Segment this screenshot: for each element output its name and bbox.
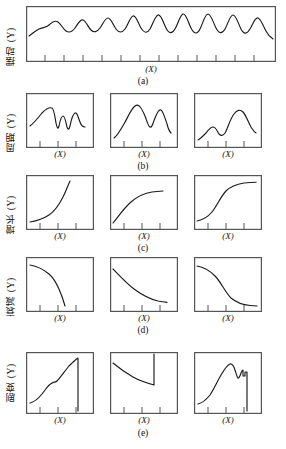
plot-abrupt-rise-then-drop bbox=[26, 352, 94, 414]
panel-b3-xlabel: (X) bbox=[194, 149, 262, 159]
row-c: 增长 (Y) (X) bbox=[0, 175, 286, 255]
row-e-ylabel: 剧变 (Y) bbox=[0, 352, 24, 414]
panel-b2-xlabel: (X) bbox=[110, 149, 178, 159]
plot-period-multi-peak bbox=[26, 93, 94, 148]
row-e-caption: (e) bbox=[0, 428, 286, 438]
panel-d3-xlabel: (X) bbox=[194, 313, 262, 323]
panel-e1-xlabel: (X) bbox=[26, 415, 94, 425]
row-a-caption: (a) bbox=[0, 76, 286, 86]
row-a: 摆动 (Y) bbox=[0, 6, 286, 88]
plot-oscillation-wide bbox=[26, 6, 276, 62]
plot-growth-logarithmic bbox=[110, 175, 178, 230]
figure-root: 摆动 (Y) bbox=[0, 0, 286, 449]
panel-c1-xlabel: (X) bbox=[26, 231, 94, 241]
row-a-xlabel: (X) bbox=[26, 64, 276, 74]
panel-e3-xlabel: (X) bbox=[194, 415, 262, 425]
row-b: 周期 (Y) (X) bbox=[0, 93, 286, 173]
row-e: 剧变 (Y) (X) bbox=[0, 352, 286, 442]
panel-c3-xlabel: (X) bbox=[194, 231, 262, 241]
plot-decay-accelerating bbox=[26, 257, 94, 312]
row-d: 衰减 (Y) (X) bbox=[0, 257, 286, 337]
row-c-caption: (c) bbox=[0, 243, 286, 253]
panel-d2-xlabel: (X) bbox=[110, 313, 178, 323]
plot-growth-sigmoid bbox=[194, 175, 262, 230]
plot-period-rising-two-peak bbox=[194, 93, 262, 148]
panel-e2-xlabel: (X) bbox=[110, 415, 178, 425]
plot-period-two-peak bbox=[110, 93, 178, 148]
panel-c2-xlabel: (X) bbox=[110, 231, 178, 241]
plot-decay-exponential bbox=[110, 257, 178, 312]
plot-abrupt-peak-then-collapse bbox=[194, 352, 262, 414]
panel-b1-xlabel: (X) bbox=[26, 149, 94, 159]
plot-abrupt-decline-then-jump bbox=[110, 352, 178, 414]
plot-decay-sigmoid bbox=[194, 257, 262, 312]
row-b-caption: (b) bbox=[0, 161, 286, 171]
plot-growth-exponential bbox=[26, 175, 94, 230]
row-d-caption: (d) bbox=[0, 325, 286, 335]
panel-d1-xlabel: (X) bbox=[26, 313, 94, 323]
